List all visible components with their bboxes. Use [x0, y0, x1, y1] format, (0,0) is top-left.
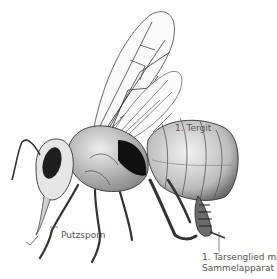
label-tarsenglied-line1: 1. Tarsenglied mit — [202, 252, 277, 263]
label-putzsporn: Putzsporn — [61, 230, 105, 241]
label-tergit: 1. Tergit — [175, 123, 211, 134]
bee-illustration — [0, 0, 277, 279]
hind-leg-tarsus — [195, 196, 225, 238]
label-tarsenglied-line2: Sammelapparat — [202, 263, 274, 274]
